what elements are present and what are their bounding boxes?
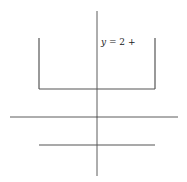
- curve-label-top: y = 2 +: [100, 37, 135, 47]
- region-diagram: y = 2 +: [0, 0, 187, 182]
